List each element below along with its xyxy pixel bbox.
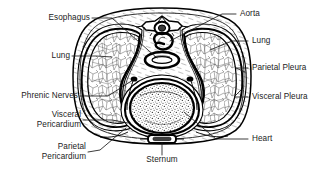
label-visceral-pleura: Visceral Pleura <box>252 92 308 102</box>
label-parietal-pericardium-line1: Parietal <box>42 142 86 152</box>
esophagus <box>145 52 179 68</box>
thoracic-cross-section-diagram: Esophagus Lung Phrenic Nerves Visceral P… <box>0 0 324 177</box>
label-visceral-pericardium-line2: Pericardium <box>37 120 81 130</box>
label-parietal-pericardium: Parietal Pericardium <box>42 142 86 162</box>
label-parietal-pericardium-line2: Pericardium <box>42 152 86 162</box>
label-phrenic-nerves: Phrenic Nerves <box>21 91 78 101</box>
heart <box>130 83 194 133</box>
label-lung-left: Lung <box>52 51 70 61</box>
label-aorta: Aorta <box>240 9 260 19</box>
label-visceral-pericardium: Visceral Pericardium <box>37 110 81 130</box>
label-esophagus: Esophagus <box>49 13 90 23</box>
label-heart: Heart <box>252 134 272 144</box>
label-sternum: Sternum <box>136 155 188 165</box>
label-lung-right: Lung <box>252 36 270 46</box>
label-parietal-pleura: Parietal Pleura <box>252 63 306 73</box>
pericardium-and-heart <box>121 75 203 138</box>
label-visceral-pericardium-line1: Visceral <box>37 110 81 120</box>
